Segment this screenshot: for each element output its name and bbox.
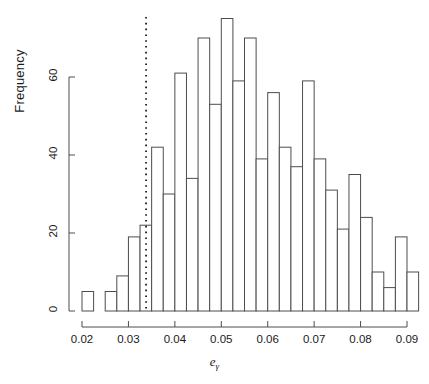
y-axis-tick-label: 20 — [47, 222, 59, 240]
x-axis-tick-label: 0.08 — [349, 333, 371, 345]
egamma-axis-line — [82, 321, 407, 327]
histogram-bar — [279, 147, 291, 311]
x-axis-title: eγ — [0, 354, 429, 371]
histogram-bar — [233, 81, 245, 311]
y-axis-tick-label: 40 — [47, 144, 59, 162]
x-axis-tick-label: 0.05 — [210, 333, 232, 345]
histogram-bar — [268, 93, 280, 311]
histogram-bar — [175, 73, 187, 311]
histogram-bar — [349, 175, 361, 312]
histogram-bar — [152, 147, 164, 311]
histogram-plot-area — [0, 0, 429, 384]
x-axis-tick-label: 0.09 — [396, 333, 418, 345]
histogram-bar — [105, 292, 117, 312]
histogram-bar — [117, 276, 129, 311]
histogram-figure: 0.020.030.040.050.060.070.080.09 0204060… — [0, 0, 429, 384]
histogram-bar — [198, 38, 210, 311]
histogram-bar — [186, 178, 198, 311]
x-axis-tick-label: 0.02 — [71, 333, 93, 345]
frequency-axis-line — [69, 77, 75, 311]
y-axis-tick-label: 60 — [47, 66, 59, 84]
histogram-bar — [82, 292, 94, 312]
histogram-bar — [337, 229, 349, 311]
histogram-bar — [245, 38, 257, 311]
histogram-bar — [303, 81, 315, 311]
histogram-bar — [326, 190, 338, 311]
histogram-bar — [210, 104, 222, 311]
histogram-bar — [372, 272, 384, 311]
histogram-bar — [407, 272, 419, 311]
x-axis-tick-label: 0.06 — [257, 333, 279, 345]
histogram-bar — [221, 19, 233, 312]
histogram-bar — [256, 159, 268, 311]
histogram-bar — [384, 288, 396, 311]
x-axis-tick-label: 0.03 — [117, 333, 139, 345]
histogram-bar — [314, 159, 326, 311]
histogram-bar — [361, 217, 373, 311]
histogram-bar — [395, 237, 407, 311]
histogram-bars — [82, 19, 419, 312]
histogram-bar — [291, 167, 303, 311]
y-axis-title: Frequency — [12, 21, 27, 141]
histogram-bar — [163, 194, 175, 311]
histogram-bar — [128, 237, 140, 311]
x-axis-tick-label: 0.07 — [303, 333, 325, 345]
x-axis-tick-label: 0.04 — [164, 333, 186, 345]
y-axis-tick-label: 0 — [47, 300, 59, 318]
x-axis-title-subscript: γ — [216, 361, 220, 371]
